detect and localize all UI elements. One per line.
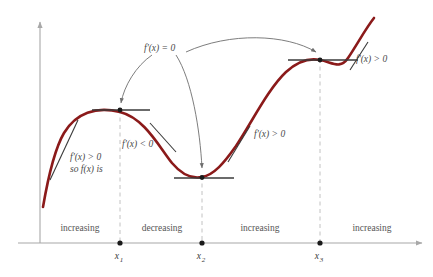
label-middle-positive: f'(x) > 0 bbox=[254, 129, 285, 140]
axis-tick-labels-group: x1 x2 x3 bbox=[114, 251, 324, 264]
tangent-slope-positive-middle bbox=[228, 126, 250, 162]
interval-label-4: increasing bbox=[352, 223, 391, 233]
axis-tick-label-x2: x2 bbox=[196, 251, 206, 264]
derivative-sign-diagram: f'(x) = 0 f'(x) > 0 so f(x) is f'(x) < 0… bbox=[0, 0, 433, 277]
critical-point-dots-group bbox=[118, 58, 323, 180]
curve-point-x3 bbox=[318, 58, 323, 63]
arrow-to-x2-minimum bbox=[176, 55, 202, 168]
interval-labels-group: increasing decreasing increasing increas… bbox=[60, 223, 391, 233]
axis-tick-dot-x2 bbox=[199, 240, 204, 245]
dashed-guides-group bbox=[120, 59, 320, 242]
label-left-positive: f'(x) > 0 bbox=[70, 152, 101, 163]
tick-base-x3: x bbox=[314, 251, 320, 261]
interval-label-3: increasing bbox=[240, 223, 279, 233]
label-derivative-negative: f'(x) < 0 bbox=[122, 139, 153, 150]
axis-tick-label-x3: x3 bbox=[314, 251, 324, 264]
label-left-positive-second-line: so f(x) is bbox=[70, 164, 103, 175]
label-derivative-zero: f'(x) = 0 bbox=[144, 43, 175, 54]
interval-label-1: increasing bbox=[60, 223, 99, 233]
tick-sub-x1: 1 bbox=[120, 256, 124, 264]
curve-point-x1 bbox=[118, 108, 123, 113]
curve-point-x2 bbox=[200, 175, 205, 180]
axis-tick-dot-x3 bbox=[317, 240, 322, 245]
tick-base-x2: x bbox=[196, 251, 202, 261]
axis-tick-dot-x1 bbox=[117, 240, 122, 245]
interval-label-2: decreasing bbox=[142, 223, 183, 233]
axis-tick-label-x1: x1 bbox=[114, 251, 124, 264]
tick-sub-x3: 3 bbox=[319, 256, 324, 264]
diagram-canvas: f'(x) = 0 f'(x) > 0 so f(x) is f'(x) < 0… bbox=[0, 0, 433, 277]
tick-sub-x2: 2 bbox=[202, 256, 206, 264]
label-right-positive: f'(x) > 0 bbox=[356, 54, 387, 65]
arrow-to-x3-inflection bbox=[186, 38, 316, 52]
tick-base-x1: x bbox=[114, 251, 120, 261]
arrow-to-x1-maximum bbox=[121, 55, 152, 103]
